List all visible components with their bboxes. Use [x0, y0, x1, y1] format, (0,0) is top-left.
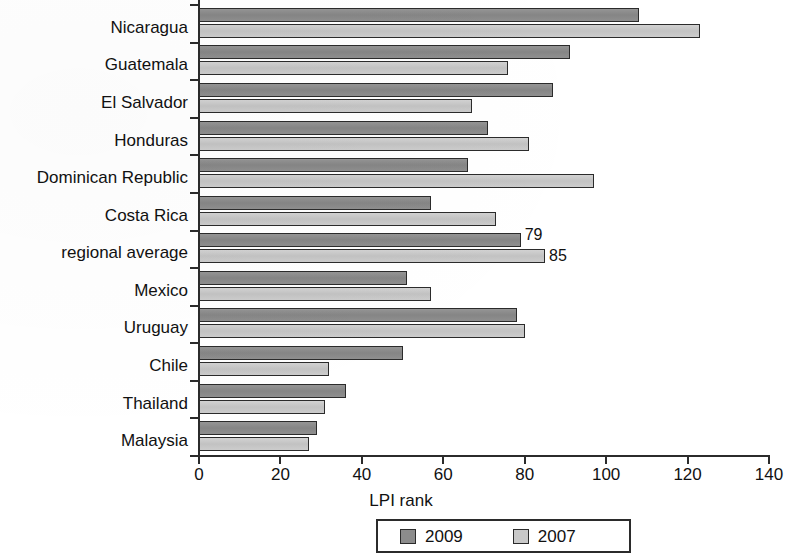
x-axis-tick [279, 455, 281, 464]
x-axis-tick-label: 120 [673, 466, 701, 483]
y-axis-label-thailand: Thailand [0, 395, 188, 412]
bar-mexico-2007 [199, 287, 431, 301]
bar-regional-average-2009 [199, 233, 521, 247]
x-axis-tick-label: 80 [515, 466, 534, 483]
legend: 2009 2007 [376, 519, 631, 553]
y-axis-label-mexico: Mexico [0, 282, 188, 299]
bar-value-label-2009: 79 [525, 227, 543, 243]
x-axis-line [198, 455, 770, 457]
y-axis-label-chile: Chile [0, 357, 188, 374]
bar-uruguay-2009 [199, 308, 517, 322]
bar-el-salvador-2009 [199, 83, 553, 97]
y-axis-label-honduras: Honduras [0, 132, 188, 149]
x-axis-tick-label: 20 [271, 466, 290, 483]
x-axis-tick [605, 455, 607, 464]
bar-regional-average-2007 [199, 249, 545, 263]
x-axis-tick-label: 40 [352, 466, 371, 483]
y-axis-label-malaysia: Malaysia [0, 432, 188, 449]
bar-malaysia-2007 [199, 437, 309, 451]
y-axis-label-costa-rica: Costa Rica [0, 207, 188, 224]
x-axis-title: LPI rank [0, 492, 786, 509]
bar-costa-rica-2007 [199, 212, 496, 226]
bar-honduras-2009 [199, 121, 488, 135]
x-axis-tick [198, 455, 200, 464]
y-axis-label-dominican-republic: Dominican Republic [0, 169, 188, 186]
bar-nicaragua-2009 [199, 8, 639, 22]
bar-honduras-2007 [199, 137, 529, 151]
bar-mexico-2009 [199, 271, 407, 285]
legend-item-2007[interactable]: 2007 [513, 521, 576, 551]
x-axis-tick-label: 60 [434, 466, 453, 483]
legend-label-2007: 2007 [538, 528, 576, 545]
y-axis-label-uruguay: Uruguay [0, 319, 188, 336]
plot-area: 7985 [199, 0, 769, 455]
x-axis-tick-label: 140 [755, 466, 783, 483]
y-axis-label-guatemala: Guatemala [0, 56, 188, 73]
x-axis-tick [687, 455, 689, 464]
x-axis-tick [524, 455, 526, 464]
bar-value-label-2007: 85 [549, 248, 567, 264]
bar-thailand-2007 [199, 400, 325, 414]
legend-label-2009: 2009 [425, 528, 463, 545]
x-axis-tick [361, 455, 363, 464]
y-axis-label-el-salvador: El Salvador [0, 94, 188, 111]
y-axis-line [198, 0, 200, 456]
x-axis-tick [442, 455, 444, 464]
x-axis-title-text: LPI rank [369, 491, 432, 510]
x-axis-tick-label: 0 [194, 466, 203, 483]
bar-guatemala-2007 [199, 61, 508, 75]
bar-uruguay-2007 [199, 324, 525, 338]
y-axis-label-regional-average: regional average [0, 244, 188, 261]
bar-thailand-2009 [199, 384, 346, 398]
bar-chart: NicaraguaGuatemalaEl SalvadorHondurasDom… [0, 0, 786, 559]
bar-nicaragua-2007 [199, 24, 700, 38]
bar-dominican-republic-2007 [199, 174, 594, 188]
y-axis-label-nicaragua: Nicaragua [0, 19, 188, 36]
bar-costa-rica-2009 [199, 196, 431, 210]
bar-chile-2009 [199, 346, 403, 360]
legend-swatch-2007-icon [513, 529, 529, 544]
bar-guatemala-2009 [199, 45, 570, 59]
bar-dominican-republic-2009 [199, 158, 468, 172]
legend-item-2009[interactable]: 2009 [400, 521, 463, 551]
bar-malaysia-2009 [199, 421, 317, 435]
legend-swatch-2009-icon [400, 529, 416, 544]
bar-el-salvador-2007 [199, 99, 472, 113]
bar-chile-2007 [199, 362, 329, 376]
x-axis-tick [768, 455, 770, 464]
x-axis-tick-label: 100 [592, 466, 620, 483]
